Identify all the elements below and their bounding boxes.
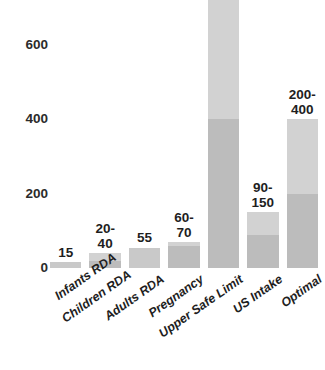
bar-value-label: 55 [137,230,152,245]
y-axis-tick-label: 600 [0,38,48,52]
bar-segment [129,248,161,268]
bar-pregnancy[interactable] [168,242,200,268]
bar-segment-min [287,194,319,268]
bar-value-label: 60- 70 [174,210,194,240]
bar-adults-rda[interactable] [129,248,161,268]
bar-segment-min [208,119,240,268]
bar-value-label: 20- 40 [95,221,115,251]
bar-upper-safe-limit[interactable] [208,0,240,268]
plot-area: 1520- 405560- 70400- 80090- 150200- 400 [46,8,322,268]
bar-segment-min [247,235,279,268]
x-axis-label-text: Optimal [278,272,324,310]
bar-segment-max [287,119,319,193]
y-axis-tick-label: 200 [0,187,48,201]
bar-value-label: 90- 150 [252,180,275,210]
y-axis-tick-label: 400 [0,113,48,127]
x-axis-labels: Infants RDAChildren RDAAdults RDAPregnan… [46,268,322,370]
bar-segment-max [247,212,279,234]
y-axis: 0200400600 [0,0,48,370]
bar-segment-max [208,0,240,119]
bar-value-label: 200- 400 [289,87,316,117]
bar-optimal[interactable] [287,119,319,268]
bar-value-label: 15 [58,245,73,260]
bar-us-intake[interactable] [247,212,279,268]
y-axis-tick-label: 0 [0,261,48,275]
bar-segment-min [168,246,200,268]
